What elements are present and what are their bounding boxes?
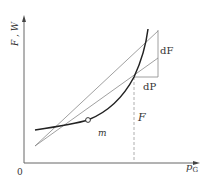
diagram-canvas: dF dP F m 0 pG F , W [0,0,211,186]
x-axis-label-sub: G [192,166,198,174]
tangent-line [35,58,158,146]
y-axis-label: F , W [10,21,20,47]
main-curve [35,29,148,130]
label-F: F [137,111,146,124]
label-dP: dP [143,81,156,92]
y-axis-arrow-icon [22,15,26,22]
x-axis-arrow-icon [193,161,200,165]
origin-label: 0 [17,167,23,177]
label-m: m [98,128,107,138]
label-dF: dF [160,45,173,56]
point-marker [86,118,91,123]
secant-line [35,31,158,146]
